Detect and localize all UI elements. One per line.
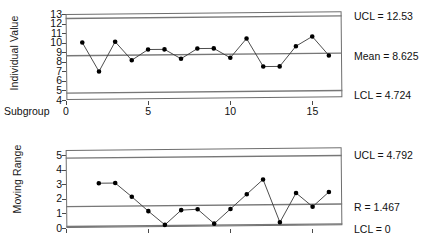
individuals-y-tick-labels: 45678910111213 [36,14,62,100]
data-point [261,64,266,69]
data-point [195,46,200,51]
data-point [179,208,184,213]
data-point [146,209,151,214]
individuals-ucl-label: UCL = 12.53 [354,10,413,22]
data-point [228,55,233,60]
moving-range-lcl-label: LCL = 0 [354,223,391,235]
data-point [163,223,168,228]
data-point [327,53,332,58]
data-point [162,47,167,52]
individuals-mean-label: Mean = 8.625 [354,50,419,62]
individuals-lcl-label: LCL = 4.724 [354,89,411,101]
data-point [244,192,249,197]
series-line [99,179,329,226]
data-point [113,39,118,44]
control-chart-figure: Individual Value 45678910111213 UCL = 12… [0,0,425,250]
individuals-series-svg [66,11,343,100]
data-point [97,69,102,74]
individuals-y-axis-title: Individual Value [8,15,20,91]
lcl-line [66,224,342,227]
data-point [278,220,283,225]
y-tick-label: 10 [50,38,62,47]
x-tick-mark [148,229,149,233]
ucl-line [66,155,342,158]
ucl-line [66,16,342,19]
data-point [129,194,134,199]
data-point [310,204,315,209]
data-point [179,56,184,61]
data-point [327,190,332,195]
moving-range-r-label: R = 1.467 [354,201,400,213]
moving-range-ucl-label: UCL = 4.792 [354,149,413,161]
y-tick-label: 13 [50,10,62,19]
moving-range-plot-area [66,147,343,228]
data-point [310,34,315,39]
x-tick-label: 5 [145,105,151,117]
center-line [66,204,342,207]
y-tick-label: 11 [51,29,62,38]
x-tick-mark [312,229,313,233]
moving-range-y-axis-title: Moving Range [11,144,23,214]
data-point [294,191,299,196]
data-point [80,40,85,45]
y-tick-label: 12 [50,19,62,28]
data-point [212,221,217,226]
data-point [146,47,151,52]
x-tick-label: 0 [63,105,69,117]
individuals-chart: Individual Value 45678910111213 UCL = 12… [0,0,425,128]
data-point [244,36,249,41]
moving-range-y-tick-labels: 012345 [36,150,62,228]
subgroup-axis-title: Subgroup [4,105,50,117]
data-point [261,177,266,182]
data-point [277,64,282,69]
moving-range-chart: Moving Range 012345 UCL = 4.792 R = 1.46… [0,128,425,250]
lcl-line [66,90,342,93]
moving-range-series-svg [66,147,343,228]
x-tick-mark [230,229,231,233]
data-point [228,207,233,212]
data-point [96,181,101,186]
data-point [113,181,118,186]
x-tick-label: 10 [224,105,236,117]
data-point [211,46,216,51]
x-tick-mark [66,229,67,233]
x-tick-label: 15 [307,105,319,117]
data-point [195,207,200,212]
data-point [294,44,299,49]
individuals-plot-area [66,11,343,100]
data-point [129,58,134,63]
